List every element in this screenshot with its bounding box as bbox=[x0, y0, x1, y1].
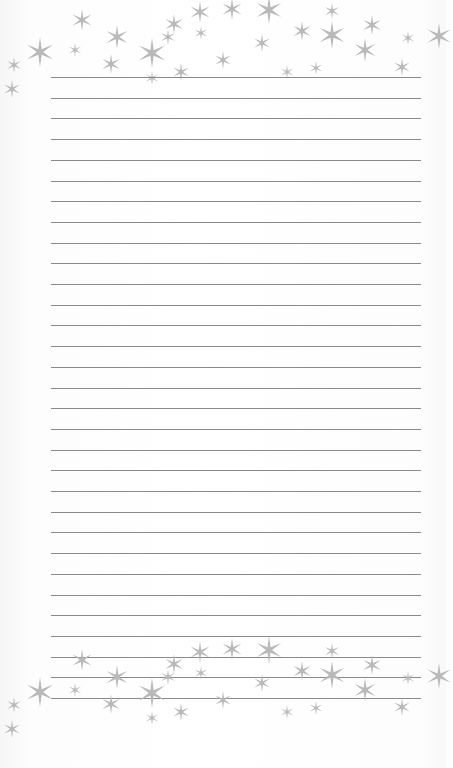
star-icon bbox=[5, 696, 23, 718]
ruled-line bbox=[51, 491, 421, 492]
star-icon bbox=[220, 637, 244, 665]
star-icon bbox=[70, 648, 94, 676]
ruled-line bbox=[51, 388, 421, 389]
star-icon bbox=[317, 660, 347, 694]
ruled-line bbox=[51, 367, 421, 368]
star-icon bbox=[213, 690, 233, 714]
star-icon bbox=[163, 653, 185, 679]
star-icon bbox=[67, 682, 83, 702]
ruled-line bbox=[51, 574, 421, 575]
star-icon bbox=[100, 693, 122, 719]
star-icon bbox=[188, 640, 212, 668]
ruled-line bbox=[51, 181, 421, 182]
star-icon bbox=[400, 670, 416, 690]
ruled-line bbox=[51, 470, 421, 471]
ruled-line bbox=[51, 325, 421, 326]
star-icon bbox=[2, 719, 22, 743]
ruled-line bbox=[51, 408, 421, 409]
star-icon bbox=[308, 700, 324, 720]
ruled-line bbox=[51, 243, 421, 244]
ruled-line bbox=[51, 284, 421, 285]
star-icon bbox=[352, 677, 378, 707]
star-icon bbox=[193, 665, 209, 685]
ruled-line bbox=[51, 532, 421, 533]
ruled-line bbox=[51, 512, 421, 513]
star-icon bbox=[291, 660, 313, 686]
star-icon bbox=[392, 697, 412, 721]
ruled-line bbox=[51, 263, 421, 264]
star-icon bbox=[104, 664, 130, 694]
ruled-line bbox=[51, 201, 421, 202]
star-icon bbox=[24, 676, 56, 712]
ruled-line bbox=[51, 595, 421, 596]
ruled-line bbox=[51, 429, 421, 430]
star-icon bbox=[171, 702, 191, 726]
ruled-line bbox=[51, 553, 421, 554]
ruled-line bbox=[51, 160, 421, 161]
star-icon bbox=[279, 704, 295, 724]
star-border-bottom bbox=[0, 0, 446, 128]
ruled-line bbox=[51, 346, 421, 347]
ruled-line bbox=[51, 222, 421, 223]
ruled-line bbox=[51, 139, 421, 140]
ruled-line bbox=[51, 305, 421, 306]
star-icon bbox=[144, 710, 160, 730]
ruled-line bbox=[51, 615, 421, 616]
star-icon bbox=[254, 635, 284, 669]
ruled-line bbox=[51, 450, 421, 451]
star-icon bbox=[425, 662, 453, 694]
star-icon bbox=[252, 673, 272, 697]
